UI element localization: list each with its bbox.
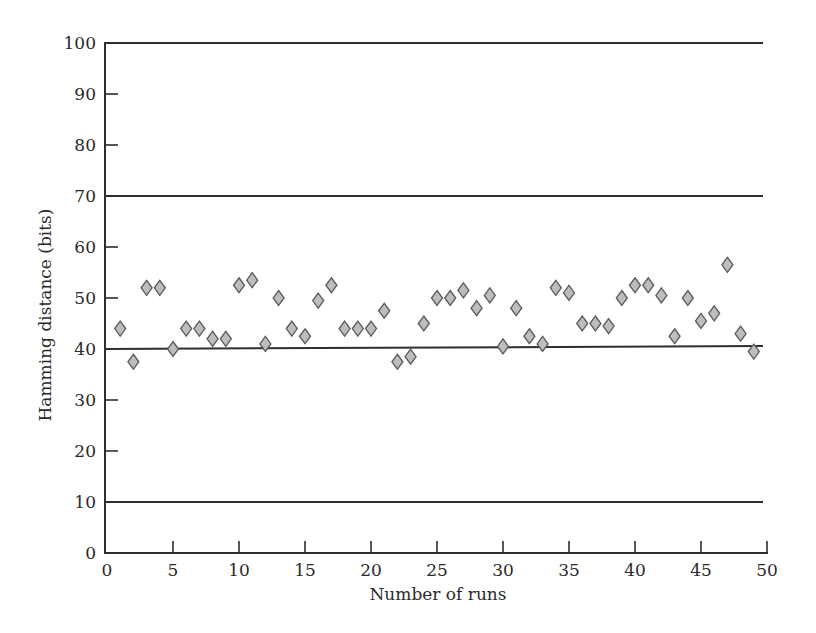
y-tick-label: 30 (74, 390, 96, 410)
data-point-diamond (524, 329, 535, 344)
data-point-diamond (247, 273, 258, 288)
data-point-diamond (154, 280, 165, 295)
x-tick-label: 35 (558, 560, 580, 580)
data-point-diamond (577, 316, 588, 331)
data-point-diamond (656, 288, 667, 303)
data-point-diamond (722, 257, 733, 272)
y-ticks: 0102030405060708090100 (64, 33, 118, 563)
data-point-diamond (300, 329, 311, 344)
data-point-diamond (537, 336, 548, 351)
x-tick-label: 0 (102, 560, 113, 580)
data-point-diamond (326, 278, 337, 293)
y-tick-label: 90 (74, 84, 96, 104)
data-point-diamond (630, 278, 641, 293)
data-point-diamond (115, 321, 126, 336)
x-tick-label: 30 (492, 560, 514, 580)
data-point-diamond (564, 285, 575, 300)
data-points (115, 257, 760, 369)
x-tick-label: 5 (168, 560, 179, 580)
data-point-diamond (603, 319, 614, 334)
data-point-diamond (709, 306, 720, 321)
data-point-diamond (669, 329, 680, 344)
data-point-diamond (194, 321, 205, 336)
data-point-diamond (366, 321, 377, 336)
data-point-diamond (234, 278, 245, 293)
y-axis-title: Hamming distance (bits) (35, 209, 55, 422)
data-point-diamond (550, 280, 561, 295)
data-point-diamond (511, 301, 522, 316)
y-tick-label: 70 (74, 186, 96, 206)
x-tick-label: 50 (756, 560, 778, 580)
data-point-diamond (682, 291, 693, 306)
y-tick-label: 60 (74, 237, 96, 257)
x-tick-label: 20 (360, 560, 382, 580)
data-point-diamond (418, 316, 429, 331)
y-tick-label: 10 (74, 492, 96, 512)
y-tick-label: 50 (74, 288, 96, 308)
data-point-diamond (696, 313, 707, 328)
x-tick-label: 10 (228, 560, 250, 580)
y-tick-label: 20 (74, 441, 96, 461)
data-point-diamond (220, 331, 231, 346)
x-tick-label: 40 (624, 560, 646, 580)
data-point-diamond (181, 321, 192, 336)
y-tick-label: 80 (74, 135, 96, 155)
y-tick-label: 100 (64, 33, 96, 53)
x-tick-label: 15 (294, 560, 316, 580)
x-tick-label: 45 (690, 560, 712, 580)
reference-lines (104, 43, 763, 502)
data-point-diamond (207, 331, 218, 346)
data-point-diamond (339, 321, 350, 336)
data-point-diamond (379, 303, 390, 318)
data-point-diamond (405, 349, 416, 364)
reference-line-40 (104, 346, 763, 349)
y-tick-label: 40 (74, 339, 96, 359)
data-point-diamond (286, 321, 297, 336)
x-tick-label: 25 (426, 560, 448, 580)
x-axis-title: Number of runs (369, 584, 506, 604)
data-point-diamond (498, 339, 509, 354)
data-point-diamond (590, 316, 601, 331)
data-point-diamond (616, 291, 627, 306)
data-point-diamond (313, 293, 324, 308)
data-point-diamond (458, 283, 469, 298)
data-point-diamond (352, 321, 363, 336)
data-point-diamond (128, 354, 139, 369)
x-ticks: 05101520253035404550 (102, 541, 778, 580)
y-tick-label: 0 (85, 543, 96, 563)
data-point-diamond (445, 291, 456, 306)
data-point-diamond (471, 301, 482, 316)
data-point-diamond (168, 342, 179, 357)
data-point-diamond (432, 291, 443, 306)
data-point-diamond (643, 278, 654, 293)
data-point-diamond (392, 354, 403, 369)
data-point-diamond (141, 280, 152, 295)
data-point-diamond (484, 288, 495, 303)
data-point-diamond (735, 326, 746, 341)
scatter-chart: 0102030405060708090100 05101520253035404… (0, 0, 816, 633)
data-point-diamond (273, 291, 284, 306)
